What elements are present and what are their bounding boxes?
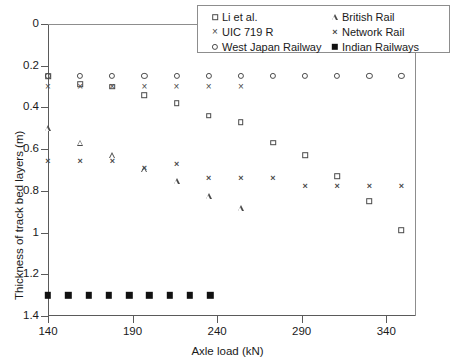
marker-x-icon — [206, 82, 212, 92]
marker-open-triangle-icon — [238, 205, 244, 211]
marker-open-triangle-icon — [77, 140, 83, 146]
legend-item[interactable]: West Japan Railway — [208, 40, 321, 54]
marker-x-bold-icon — [270, 174, 275, 183]
plot-area — [48, 24, 415, 316]
y-axis-tick — [41, 149, 48, 150]
y-axis-tick-label: 1 — [33, 227, 39, 239]
legend-item-label: Indian Railways — [342, 41, 419, 53]
y-axis-tick-label: 0.6 — [23, 143, 39, 155]
marker-x-bold-icon — [367, 181, 372, 190]
x-axis-tick — [48, 316, 49, 323]
x-axis-tick-label: 340 — [377, 325, 396, 337]
marker-x-icon — [238, 82, 244, 92]
legend-marker — [328, 26, 342, 38]
marker-filled-square-icon — [146, 292, 152, 298]
x-axis-title: Axle load (kN) — [0, 345, 455, 357]
marker-open-square-icon — [270, 140, 276, 146]
x-axis-tick-label: 240 — [208, 325, 227, 337]
x-axis-tick — [302, 316, 303, 323]
marker-open-square-icon — [206, 113, 212, 119]
legend-item[interactable]: Network Rail — [328, 25, 419, 39]
marker-open-triangle-icon — [332, 14, 338, 20]
marker-open-square-icon — [142, 92, 148, 98]
plot-frame-right — [415, 24, 416, 316]
marker-x-bold-icon — [45, 156, 50, 165]
marker-filled-square-icon — [65, 292, 71, 298]
legend-item-label: UIC 719 R — [222, 26, 273, 38]
legend-item[interactable]: UIC 719 R — [208, 25, 321, 39]
legend-column-right: British RailNetwork RailIndian Railways — [328, 10, 419, 55]
legend-marker — [208, 11, 222, 23]
marker-x-icon — [141, 82, 147, 92]
marker-filled-square-icon — [126, 292, 132, 298]
y-axis-tick — [41, 24, 48, 25]
y-axis-tick — [41, 274, 48, 275]
marker-open-square-icon — [399, 228, 405, 234]
legend-marker — [328, 11, 342, 23]
marker-x-icon — [77, 82, 83, 92]
x-axis-tick-label: 190 — [123, 325, 142, 337]
marker-x-bold-icon — [174, 159, 179, 168]
marker-x-icon — [174, 82, 180, 92]
legend-marker — [328, 41, 342, 53]
legend-marker — [208, 26, 222, 38]
marker-filled-square-icon — [207, 292, 213, 298]
x-axis-tick-label: 140 — [38, 325, 57, 337]
y-axis-title: Thickness of track bed layers (m) — [13, 131, 25, 300]
marker-open-square-icon — [367, 198, 373, 204]
x-axis-tick-label: 290 — [292, 325, 311, 337]
y-axis-tick-label: 1.2 — [23, 268, 39, 280]
marker-x-bold-icon — [238, 174, 243, 183]
marker-filled-square-icon — [106, 292, 112, 298]
marker-open-square-icon — [174, 100, 180, 106]
x-axis-tick — [217, 316, 218, 323]
chart-container: 00.20.40.60.811.21.4 140190240290340 Thi… — [0, 0, 455, 364]
marker-filled-square-icon — [45, 292, 51, 298]
y-axis-tick — [41, 316, 48, 317]
y-axis-tick-label: 0.8 — [23, 185, 39, 197]
marker-filled-square-icon — [332, 44, 338, 50]
marker-open-triangle-icon — [45, 125, 51, 131]
marker-filled-square-icon — [85, 292, 91, 298]
y-axis-tick — [41, 66, 48, 67]
marker-open-square-icon — [302, 153, 308, 159]
marker-open-circle-icon — [212, 44, 218, 50]
legend-item-label: British Rail — [342, 11, 395, 23]
y-axis-tick — [41, 191, 48, 192]
marker-x-bold-icon — [206, 174, 211, 183]
legend-marker — [208, 41, 222, 53]
marker-x-bold-icon — [142, 163, 147, 172]
y-axis-tick-label: 0.4 — [23, 101, 39, 113]
marker-x-icon — [45, 82, 51, 92]
marker-open-triangle-icon — [206, 193, 212, 199]
marker-x-bold-icon — [77, 156, 82, 165]
legend-item-label: Network Rail — [342, 26, 404, 38]
marker-x-bold-icon — [110, 156, 115, 165]
x-axis-tick — [386, 316, 387, 323]
y-axis-tick-label: 0 — [33, 18, 39, 30]
y-axis-tick — [41, 107, 48, 108]
marker-x-bold-icon — [302, 181, 307, 190]
legend-item[interactable]: Indian Railways — [328, 40, 419, 54]
y-axis-tick-label: 0.2 — [23, 60, 39, 72]
legend-item-label: West Japan Railway — [222, 41, 321, 53]
y-axis-tick — [41, 233, 48, 234]
marker-x-icon — [109, 82, 115, 92]
marker-x-bold-icon — [335, 181, 340, 190]
marker-x-bold-icon — [332, 28, 337, 37]
marker-open-square-icon — [212, 14, 218, 20]
marker-open-triangle-icon — [174, 178, 180, 184]
y-axis-tick-label: 1.4 — [23, 310, 39, 322]
marker-x-icon — [212, 27, 218, 37]
legend: Li et al.UIC 719 RWest Japan Railway Bri… — [197, 5, 450, 53]
marker-filled-square-icon — [187, 292, 193, 298]
marker-x-bold-icon — [399, 181, 404, 190]
marker-open-square-icon — [238, 119, 244, 125]
legend-item[interactable]: Li et al. — [208, 10, 321, 24]
marker-open-square-icon — [334, 173, 340, 179]
marker-filled-square-icon — [167, 292, 173, 298]
legend-column-left: Li et al.UIC 719 RWest Japan Railway — [208, 10, 321, 55]
legend-item[interactable]: British Rail — [328, 10, 419, 24]
legend-item-label: Li et al. — [222, 11, 257, 23]
x-axis-tick — [133, 316, 134, 323]
